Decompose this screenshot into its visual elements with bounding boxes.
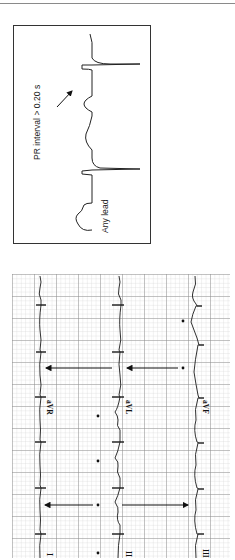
lead-label-i: I (45, 553, 54, 556)
asterisk-marker (97, 415, 100, 418)
lead-label-avr: aVR (45, 400, 54, 415)
asterisk-marker (97, 460, 100, 463)
lead-label-ii: II (124, 551, 133, 557)
lead-label-iii: III (201, 549, 210, 558)
asterisk-marker (182, 367, 185, 370)
any-lead-caption: Any lead (100, 199, 110, 233)
asterisk-marker (97, 552, 100, 555)
asterisk-marker (182, 320, 185, 323)
asterisk-marker (97, 504, 100, 507)
pr-interval-arrow (57, 91, 72, 107)
pr-interval-annotation: PR interval > 0.20 s (32, 85, 42, 160)
lead-label-avf: aVF (201, 400, 210, 414)
lead-label-avl: aVL (124, 400, 133, 414)
figure-canvas: PR interval > 0.20 s Any lead aVR aVL aV… (0, 0, 235, 560)
ecg-grid (12, 274, 230, 558)
